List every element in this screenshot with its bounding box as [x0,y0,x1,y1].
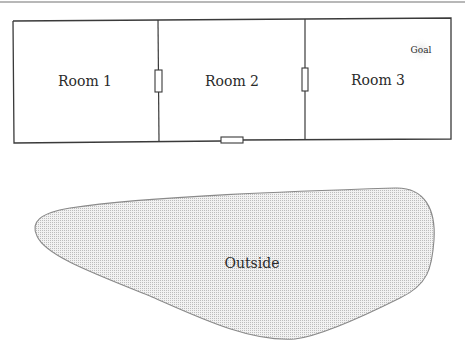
building-wall-left [13,21,222,143]
floor-plan-diagram: Room 1 Room 2 Room 3 Goal Outside [0,0,465,355]
door-room2-room3[interactable] [302,68,308,91]
outside-label: Outside [224,255,279,271]
room1-label: Room 1 [58,73,112,89]
door-room2-outside[interactable] [221,137,243,143]
door-room1-room2[interactable] [155,70,162,92]
goal-label: Goal [411,45,432,55]
room3-label: Room 3 [351,72,405,88]
room2-label: Room 2 [205,73,259,89]
